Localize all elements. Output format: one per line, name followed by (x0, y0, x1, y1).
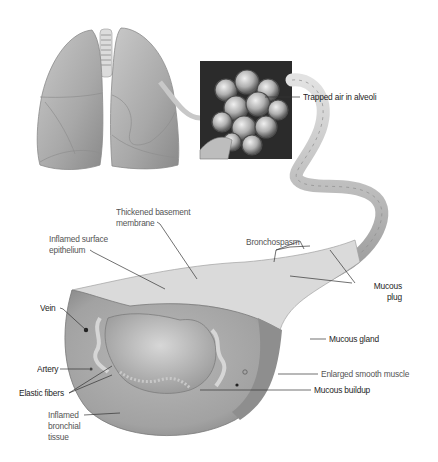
label-trapped-air: Trapped air in alveoli (303, 91, 376, 102)
alveoli-inset (200, 61, 292, 159)
label-inflamed-surface-epithelium: Inflamed surface epithelium (49, 233, 108, 255)
label-enlarged-smooth-muscle: Enlarged smooth muscle (321, 368, 409, 379)
asthma-illustration (0, 0, 438, 462)
label-elastic-fibers: Elastic fibers (19, 387, 64, 398)
label-inflamed-bronchial-tissue: Inflamed bronchial tissue (48, 409, 80, 442)
label-artery: Artery (37, 363, 58, 374)
label-mucous-gland: Mucous gland (329, 333, 379, 344)
label-bronchospasm: Bronchospasm (246, 236, 300, 247)
bronchus-cross-section (65, 240, 360, 436)
label-thickened-basement-membrane: Thickened basement membrane (116, 206, 190, 228)
label-mucous-buildup: Mucous buildup (314, 384, 370, 395)
label-mucous-plug: Mucous plug (360, 280, 402, 302)
label-vein: Vein (40, 302, 56, 313)
lungs-illustration (37, 28, 179, 170)
